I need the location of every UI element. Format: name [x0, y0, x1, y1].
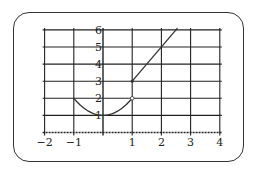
x-tick-label: 4 [216, 136, 223, 149]
y-tick-label: 4 [95, 58, 102, 71]
x-tick-label: 2 [158, 136, 165, 149]
x-tick-label: 1 [129, 136, 136, 149]
y-tick-label: 5 [95, 41, 102, 54]
closed-endpoint [131, 80, 134, 83]
x-tick-label: −1 [66, 136, 82, 149]
y-tick-label: 6 [95, 24, 102, 37]
x-tick-label: −2 [36, 136, 52, 149]
x-tick-label: 3 [187, 136, 194, 149]
open-endpoint [130, 97, 134, 101]
y-tick-label: 3 [95, 75, 102, 88]
linear-segment [132, 28, 177, 81]
y-tick-label: 2 [95, 92, 102, 105]
piecewise-function-graph: −2−11234123456 [0, 0, 260, 174]
